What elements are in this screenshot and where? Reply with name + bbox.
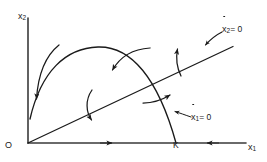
x1-nullcline-curve — [30, 47, 176, 143]
flow-arrows-group — [37, 45, 220, 143]
x2-nullcline-label-dot-icon — [223, 16, 225, 18]
y-axis-label-sub: 2 — [23, 14, 27, 21]
y-axis-label: x2 — [18, 6, 26, 22]
x2-nullcline-leader-arrow — [206, 32, 223, 45]
x1-nullcline-leader-arrow — [175, 112, 191, 118]
x2-nullcline-label-eq: = 0 — [230, 24, 242, 34]
axes-group — [28, 18, 246, 143]
point-k-label: K — [173, 141, 179, 150]
x2-nullcline-label-base: x — [222, 24, 227, 34]
x1-nullcline-label-eq: = 0 — [199, 112, 211, 122]
x1-nullcline-label-dot-icon — [192, 104, 194, 106]
x2-nullcline-label: x2= 0 — [222, 19, 242, 35]
x-axis-label: x1 — [248, 137, 256, 153]
phase-plane-figure: x2 x1 O K x2= 0 x1= 0 — [0, 0, 267, 162]
x1-nullcline-label: x1= 0 — [191, 107, 211, 123]
x-axis-label-sub: 1 — [253, 145, 257, 152]
origin-label: O — [5, 141, 12, 150]
x2-nullcline-line — [28, 47, 233, 144]
flow-arrow-near-k — [143, 95, 170, 103]
x1-nullcline-label-base: x — [191, 112, 196, 122]
